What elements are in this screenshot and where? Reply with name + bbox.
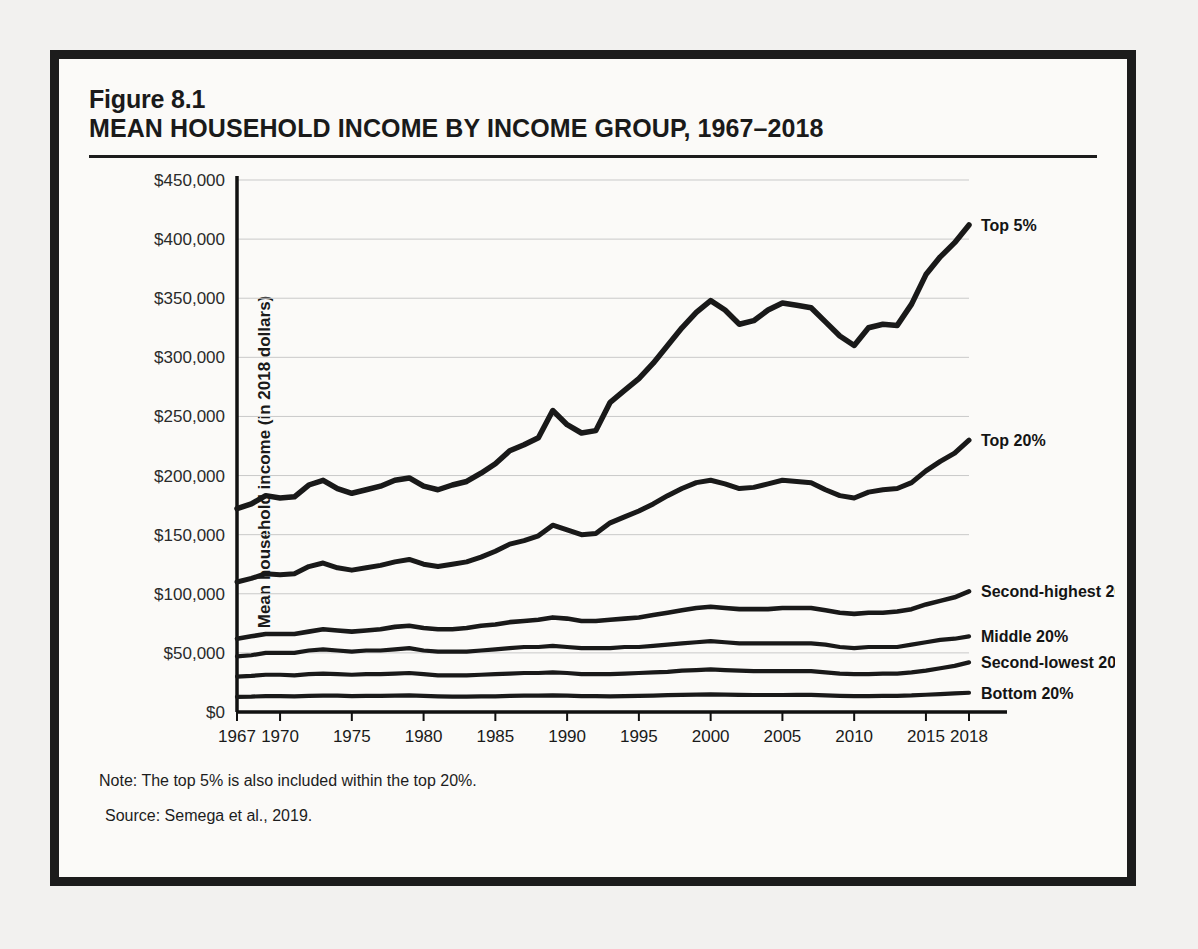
x-axis-tick-label: 2005 bbox=[763, 727, 801, 746]
x-axis-tick-label: 1985 bbox=[476, 727, 514, 746]
series-label: Middle 20% bbox=[981, 628, 1068, 645]
x-axis-tick-label: 1995 bbox=[620, 727, 658, 746]
series-label: Bottom 20% bbox=[981, 684, 1073, 701]
series-line bbox=[237, 225, 969, 509]
y-axis-tick-label: $450,000 bbox=[154, 171, 225, 190]
x-axis-tick-label: 1975 bbox=[333, 727, 371, 746]
y-axis-tick-label: $350,000 bbox=[154, 289, 225, 308]
y-axis-tick-label: $200,000 bbox=[154, 466, 225, 485]
series-line bbox=[237, 591, 969, 638]
series-label: Second-lowest 20% bbox=[981, 654, 1115, 671]
chart-area: Mean household income (in 2018 dollars) … bbox=[89, 162, 1097, 762]
y-axis-tick-label: $100,000 bbox=[154, 585, 225, 604]
y-axis-tick-label: $150,000 bbox=[154, 525, 225, 544]
figure-title: MEAN HOUSEHOLD INCOME BY INCOME GROUP, 1… bbox=[89, 114, 1097, 143]
x-axis-tick-label: 2010 bbox=[835, 727, 873, 746]
y-axis-tick-label: $50,000 bbox=[164, 644, 225, 663]
figure-note: Note: The top 5% is also included within… bbox=[99, 772, 477, 790]
x-axis-tick-label: 2000 bbox=[692, 727, 730, 746]
figure-source: Source: Semega et al., 2019. bbox=[99, 807, 477, 825]
x-axis-tick-label: 2018 bbox=[950, 727, 988, 746]
series-label: Top 5% bbox=[981, 217, 1037, 234]
y-axis-tick-label: $300,000 bbox=[154, 348, 225, 367]
figure-notes: Note: The top 5% is also included within… bbox=[99, 772, 477, 825]
series-line bbox=[237, 692, 969, 696]
y-axis-tick-label: $400,000 bbox=[154, 230, 225, 249]
x-axis-tick-label: 1970 bbox=[261, 727, 299, 746]
figure-frame: Figure 8.1 MEAN HOUSEHOLD INCOME BY INCO… bbox=[50, 50, 1136, 886]
x-axis-tick-label: 1990 bbox=[548, 727, 586, 746]
x-axis-tick-label: 2015 bbox=[907, 727, 945, 746]
figure-number: Figure 8.1 bbox=[89, 85, 1097, 113]
series-line bbox=[237, 662, 969, 676]
y-axis-tick-label: $250,000 bbox=[154, 407, 225, 426]
series-line bbox=[237, 440, 969, 582]
title-divider bbox=[89, 155, 1097, 158]
y-axis-tick-label: $0 bbox=[206, 703, 225, 722]
x-axis-tick-label: 1980 bbox=[405, 727, 443, 746]
series-line bbox=[237, 636, 969, 656]
line-chart: $0$50,000$100,000$150,000$200,000$250,00… bbox=[89, 162, 1115, 762]
figure-inner: Figure 8.1 MEAN HOUSEHOLD INCOME BY INCO… bbox=[59, 59, 1127, 877]
series-label: Second-highest 20% bbox=[981, 583, 1115, 600]
x-axis-tick-label: 1967 bbox=[218, 727, 256, 746]
series-label: Top 20% bbox=[981, 432, 1046, 449]
